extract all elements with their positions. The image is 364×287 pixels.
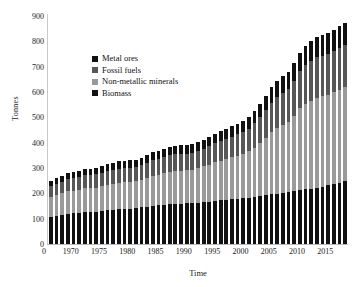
bar-segment-fossil-fuels [100, 173, 104, 186]
bar-1995 [207, 137, 211, 244]
bar-segment-metal-ores [224, 129, 228, 139]
bar-segment-biomass [106, 210, 110, 244]
legend-swatch-icon [92, 90, 98, 96]
bar-segment-biomass [72, 213, 76, 244]
bar-1972 [77, 171, 81, 244]
bar-segment-biomass [281, 193, 285, 244]
bar-segment-biomass [157, 205, 161, 244]
bar-segment-biomass [83, 212, 87, 244]
bar-1973 [83, 169, 87, 244]
bar-segment-fossil-fuels [236, 134, 240, 155]
bar-1977 [106, 164, 110, 244]
bar-2010 [292, 63, 296, 244]
bar-segment-metal-ores [111, 163, 115, 170]
bar-segment-metal-ores [151, 152, 155, 160]
bar-segment-fossil-fuels [202, 149, 206, 167]
bar-segment-non-metallic-minerals [49, 197, 53, 217]
bar-segment-metal-ores [157, 151, 161, 159]
bar-segment-biomass [258, 196, 262, 244]
bar-segment-fossil-fuels [258, 117, 262, 143]
bar-2005 [264, 96, 268, 244]
bar-segment-metal-ores [315, 37, 319, 58]
bar-1975 [94, 168, 98, 245]
bar-segment-metal-ores [247, 117, 251, 128]
bar-segment-non-metallic-minerals [162, 173, 166, 204]
bar-segment-metal-ores [281, 76, 285, 92]
bar-segment-biomass [117, 209, 121, 244]
bar-segment-metal-ores [89, 169, 93, 176]
bar-segment-fossil-fuels [247, 129, 251, 152]
bar-segment-non-metallic-minerals [111, 184, 115, 210]
bar-segment-biomass [241, 198, 245, 244]
bar-segment-biomass [253, 197, 257, 244]
bar-1967 [49, 181, 53, 244]
bar-segment-metal-ores [77, 171, 81, 178]
bar-segment-metal-ores [241, 121, 245, 132]
bar-segment-metal-ores [298, 53, 302, 72]
bar-segment-non-metallic-minerals [236, 156, 240, 199]
bar-segment-non-metallic-minerals [94, 188, 98, 212]
bar-segment-metal-ores [343, 23, 347, 45]
bar-1979 [117, 161, 121, 244]
bar-1997 [219, 131, 223, 244]
bar-segment-biomass [326, 185, 330, 244]
bar-1994 [202, 140, 206, 244]
bar-segment-biomass [134, 208, 138, 244]
bar-segment-fossil-fuels [111, 170, 115, 184]
bar-segment-non-metallic-minerals [309, 101, 313, 189]
bar-segment-metal-ores [236, 124, 240, 135]
bar-segment-non-metallic-minerals [72, 191, 76, 214]
y-tick-label: 900 [32, 12, 44, 21]
x-tick-label: 1990 [176, 247, 192, 256]
bar-segment-biomass [173, 204, 177, 244]
bar-segment-fossil-fuels [224, 139, 228, 159]
bar-segment-biomass [202, 202, 206, 244]
bar-segment-metal-ores [123, 161, 127, 168]
bar-segment-fossil-fuels [332, 51, 336, 92]
bar-segment-biomass [236, 199, 240, 244]
legend-label: Non-metallic minerals [102, 77, 178, 86]
bar-segment-biomass [66, 214, 70, 244]
bar-segment-fossil-fuels [292, 81, 296, 116]
bar-segment-fossil-fuels [134, 167, 138, 181]
bar-segment-non-metallic-minerals [66, 191, 70, 214]
bar-segment-non-metallic-minerals [157, 175, 161, 206]
bar-1982 [134, 160, 138, 244]
bar-segment-fossil-fuels [281, 93, 285, 125]
bar-segment-fossil-fuels [168, 155, 172, 171]
legend-swatch-icon [92, 67, 98, 73]
bar-segment-fossil-fuels [89, 175, 93, 188]
bar-2008 [281, 76, 285, 244]
bar-1984 [145, 155, 149, 244]
bar-segment-non-metallic-minerals [196, 168, 200, 202]
bar-segment-non-metallic-minerals [134, 181, 138, 208]
bar-segment-metal-ores [179, 145, 183, 154]
bar-segment-fossil-fuels [60, 182, 64, 193]
bar-segment-biomass [332, 184, 336, 244]
legend-item: Fossil fuels [92, 66, 178, 75]
bar-2018 [338, 26, 342, 244]
y-tick-label: 800 [32, 37, 44, 46]
bar-segment-metal-ores [275, 81, 279, 97]
bar-segment-metal-ores [304, 46, 308, 66]
bar-segment-fossil-fuels [185, 154, 189, 171]
bar-segment-fossil-fuels [264, 110, 268, 138]
bar-segment-non-metallic-minerals [298, 108, 302, 190]
bar-segment-biomass [207, 202, 211, 244]
bar-1989 [173, 146, 177, 244]
bar-segment-non-metallic-minerals [140, 180, 144, 208]
bar-segment-biomass [185, 203, 189, 244]
bar-segment-metal-ores [140, 158, 144, 166]
bar-segment-metal-ores [83, 169, 87, 176]
bar-segment-biomass [111, 210, 115, 244]
bar-segment-fossil-fuels [94, 174, 98, 187]
y-tick-label: 300 [32, 164, 44, 173]
bar-segment-fossil-fuels [343, 45, 347, 87]
bar-segment-metal-ores [332, 30, 336, 52]
bar-segment-fossil-fuels [326, 54, 330, 95]
bar-segment-non-metallic-minerals [123, 182, 127, 209]
legend-label: Fossil fuels [102, 66, 141, 75]
bar-segment-non-metallic-minerals [100, 186, 104, 211]
bar-segment-fossil-fuels [298, 71, 302, 108]
y-tick-label: 700 [32, 62, 44, 71]
